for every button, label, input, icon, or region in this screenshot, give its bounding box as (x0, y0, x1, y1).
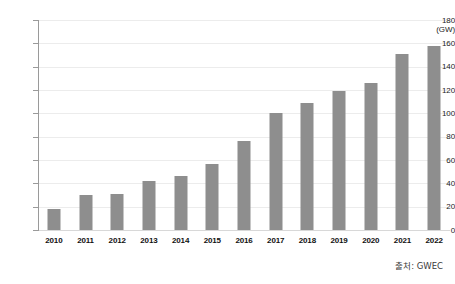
bar-slot (38, 20, 70, 230)
bar-slot (355, 20, 387, 230)
bar[interactable] (174, 176, 187, 230)
bar-slot (260, 20, 292, 230)
bar[interactable] (206, 164, 219, 231)
bar[interactable] (364, 83, 377, 230)
bar[interactable] (269, 113, 282, 230)
source-note: 출처: GWEC (395, 259, 443, 271)
bar-slot (70, 20, 102, 230)
bar[interactable] (396, 54, 409, 230)
bars-layer (38, 20, 450, 230)
x-axis-label-2017: 2017 (260, 236, 292, 245)
bar-slot (418, 20, 450, 230)
bar-chart: 180 (GW) 160 140 120 100 80 60 40 20 0 2… (0, 0, 455, 284)
bar-slot (228, 20, 260, 230)
x-axis-label-2016: 2016 (228, 236, 260, 245)
x-axis-label-2018: 2018 (292, 236, 324, 245)
bar-slot (133, 20, 165, 230)
bar-slot (323, 20, 355, 230)
bar[interactable] (79, 195, 92, 230)
y-tick-0 (33, 230, 38, 231)
bar[interactable] (428, 46, 441, 230)
x-axis-label-2013: 2013 (133, 236, 165, 245)
bar[interactable] (142, 181, 155, 230)
bar-slot (165, 20, 197, 230)
gridline-0 (38, 230, 450, 231)
x-axis-label-2014: 2014 (165, 236, 197, 245)
x-axis-label-2012: 2012 (101, 236, 133, 245)
x-axis-label-2011: 2011 (70, 236, 102, 245)
bar-slot (387, 20, 419, 230)
bar-slot (196, 20, 228, 230)
bar[interactable] (47, 209, 60, 230)
x-axis-label-2015: 2015 (196, 236, 228, 245)
x-axis-label-2019: 2019 (323, 236, 355, 245)
x-axis-label-2020: 2020 (355, 236, 387, 245)
bar[interactable] (301, 103, 314, 230)
bar[interactable] (111, 194, 124, 230)
x-axis-label-2022: 2022 (418, 236, 450, 245)
bar[interactable] (237, 141, 250, 230)
bar-slot (101, 20, 133, 230)
bar[interactable] (333, 91, 346, 230)
bar-slot (292, 20, 324, 230)
x-axis-label-2010: 2010 (38, 236, 70, 245)
x-axis-label-2021: 2021 (387, 236, 419, 245)
